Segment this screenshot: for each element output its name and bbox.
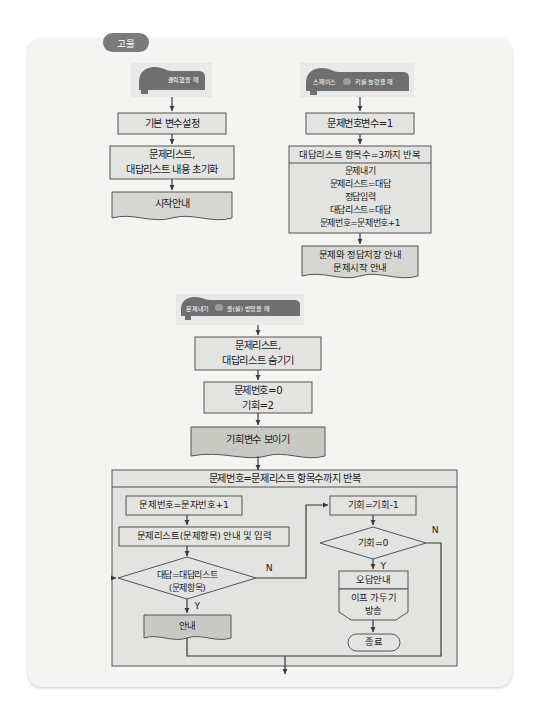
- dropdown-space[interactable]: [343, 78, 351, 85]
- node-l1[interactable]: [118, 113, 226, 134]
- node-r2-container[interactable]: [289, 146, 431, 233]
- dropdown-receive[interactable]: [215, 304, 223, 311]
- node-c3[interactable]: [339, 571, 408, 589]
- node-m3[interactable]: [191, 427, 325, 458]
- node-r3[interactable]: [302, 246, 418, 278]
- flowchart-canvas: [0, 0, 541, 722]
- hat-block-clicked[interactable]: [139, 67, 205, 94]
- node-b1[interactable]: [126, 496, 242, 515]
- chart-tag: [103, 33, 149, 52]
- node-b4[interactable]: [144, 615, 231, 639]
- node-b2[interactable]: [119, 527, 289, 546]
- node-c4[interactable]: [339, 589, 408, 620]
- node-c5[interactable]: [348, 634, 400, 651]
- node-c1[interactable]: [330, 496, 416, 515]
- node-l2[interactable]: [110, 146, 234, 179]
- node-m2[interactable]: [204, 382, 312, 413]
- node-r1[interactable]: [306, 113, 414, 134]
- node-l3[interactable]: [112, 192, 232, 220]
- hat-block-space[interactable]: [306, 68, 409, 95]
- node-m1[interactable]: [195, 337, 321, 370]
